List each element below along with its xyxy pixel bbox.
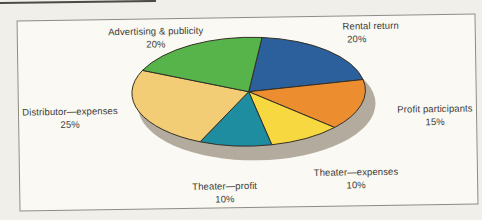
slice-percent: 20% bbox=[108, 36, 203, 50]
slice-label: Distributor—expenses bbox=[22, 104, 118, 118]
slice-percent: 20% bbox=[329, 31, 385, 45]
slice-label: Advertising & publicity bbox=[108, 23, 203, 37]
slice-label: Rental return bbox=[342, 18, 398, 32]
callout-theater-profit: Theater—profit 10% bbox=[192, 179, 257, 206]
slice-label: Theater—expenses bbox=[314, 165, 399, 179]
chart-frame: Advertising & publicity 20% Rental retur… bbox=[17, 13, 479, 211]
slice-percent: 10% bbox=[192, 192, 257, 206]
scanned-page: Advertising & publicity 20% Rental retur… bbox=[0, 0, 482, 220]
slice-label: Theater—profit bbox=[192, 179, 257, 193]
callout-advertising-publicity: Advertising & publicity 20% bbox=[108, 23, 204, 50]
callout-distributor-expenses: Distributor—expenses 25% bbox=[22, 104, 118, 131]
slice-percent: 10% bbox=[314, 178, 399, 192]
slice-percent: 25% bbox=[22, 117, 118, 131]
callout-profit-participants: Profit participants 15% bbox=[397, 101, 473, 128]
callout-rental-return: Rental return 20% bbox=[342, 18, 399, 45]
slice-label: Profit participants bbox=[397, 101, 472, 115]
page-edge-line bbox=[0, 0, 156, 4]
slice-percent: 15% bbox=[397, 114, 472, 128]
callout-theater-expenses: Theater—expenses 10% bbox=[314, 165, 399, 192]
